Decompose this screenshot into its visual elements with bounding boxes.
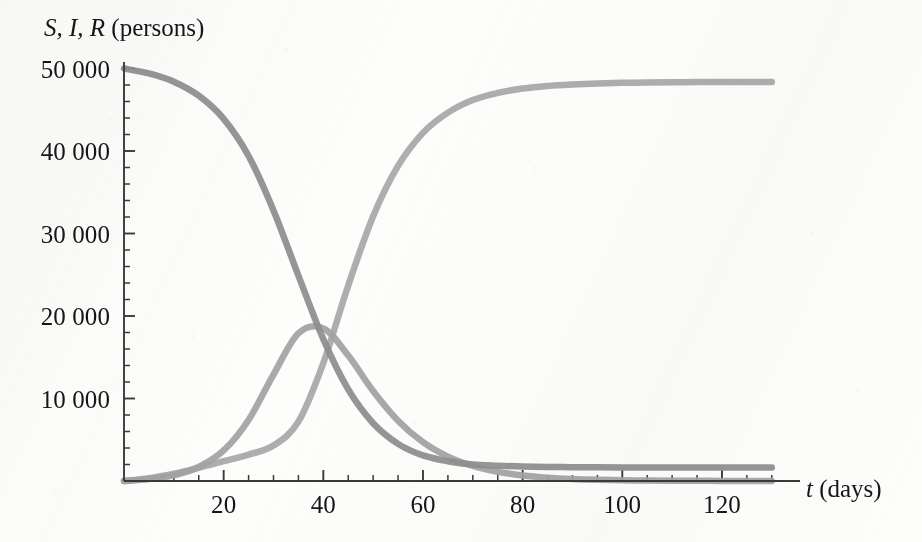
- y-axis-label: S, I, R (persons): [44, 14, 204, 42]
- data-curves: [124, 69, 772, 481]
- x-axis-label-unit: (days): [819, 475, 881, 503]
- y-tick-label-10000: 10 000: [41, 386, 110, 413]
- y-tick-label-50000: 50 000: [41, 56, 110, 83]
- x-tick-label-120: 120: [703, 491, 741, 518]
- x-tick-label-40: 40: [311, 491, 336, 518]
- x-tick-label-20: 20: [211, 491, 236, 518]
- y-tick-label-40000: 40 000: [41, 138, 110, 165]
- axis-tick-labels: 2040608010012010 00020 00030 00040 00050…: [41, 56, 741, 519]
- x-tick-label-100: 100: [603, 491, 641, 518]
- sir-model-chart: S, I, R (persons) t (days) 2040608010012…: [0, 0, 922, 542]
- axis-ticks: [124, 69, 772, 482]
- chart-canvas: S, I, R (persons) t (days) 2040608010012…: [0, 0, 922, 542]
- x-tick-label-80: 80: [510, 491, 535, 518]
- x-axis-label: t (days): [806, 475, 882, 503]
- curve-recovered: [124, 82, 772, 481]
- curve-susceptible: [124, 69, 772, 468]
- curve-infected: [124, 326, 772, 481]
- y-tick-label-30000: 30 000: [41, 221, 110, 248]
- y-axis-label-unit: (persons): [111, 14, 204, 42]
- x-tick-label-60: 60: [410, 491, 435, 518]
- y-tick-label-20000: 20 000: [41, 303, 110, 330]
- y-axis-label-variables: S, I, R: [44, 14, 105, 41]
